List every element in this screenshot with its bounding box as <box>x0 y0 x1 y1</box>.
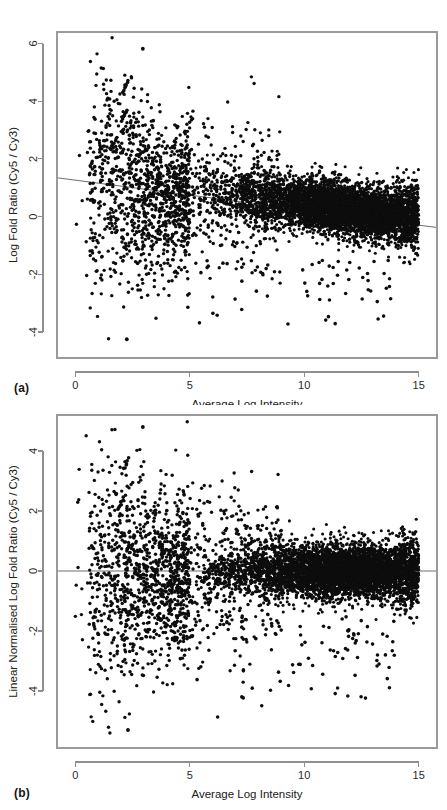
y-axis-ticks: 420-2-4 <box>27 448 43 696</box>
panel-b-tag: (b) <box>14 786 30 800</box>
y-tick-label: 0 <box>27 214 39 220</box>
x-tick-label: 5 <box>187 769 193 781</box>
y-tick-label: 2 <box>27 508 39 514</box>
y-tick-label: 0 <box>27 568 39 574</box>
scatter-points <box>74 420 421 735</box>
y-tick-label: -4 <box>27 686 39 696</box>
y-tick-label: -2 <box>27 269 39 279</box>
x-tick-label: 0 <box>72 769 78 781</box>
y-tick-label: -4 <box>27 327 39 337</box>
scatter-points <box>75 36 420 341</box>
x-tick-label: 15 <box>413 769 425 781</box>
x-tick-label: 10 <box>298 769 310 781</box>
y-axis-title: Linear Normalised Log Fold Ratio (Cy5 / … <box>7 465 19 698</box>
panel-b: 051015420-2-4Average Log IntensityLinear… <box>0 405 447 810</box>
y-tick-label: 6 <box>27 40 39 46</box>
panel-b-plot: 051015420-2-4Average Log IntensityLinear… <box>0 405 447 810</box>
x-axis-ticks: 051015 <box>72 762 425 781</box>
ma-plot-figure: 0510156420-2-4Average Log IntensityLog F… <box>0 0 447 810</box>
y-tick-label: -2 <box>27 626 39 636</box>
x-tick-label: 0 <box>72 379 78 391</box>
panel-a-plot: 0510156420-2-4Average Log IntensityLog F… <box>0 0 447 405</box>
x-axis-title: Average Log Intensity <box>191 788 302 800</box>
y-tick-label: 4 <box>27 98 39 104</box>
y-tick-label: 4 <box>27 448 39 454</box>
y-axis-title: Log Fold Ratio (Cy5 / Cy3) <box>7 127 19 263</box>
y-tick-label: 2 <box>27 156 39 162</box>
panel-a-tag: (a) <box>14 381 29 395</box>
panel-a: 0510156420-2-4Average Log IntensityLog F… <box>0 0 447 405</box>
x-axis-ticks: 051015 <box>72 372 425 391</box>
y-axis-ticks: 6420-2-4 <box>27 40 43 336</box>
x-axis-title: Average Log Intensity <box>191 398 302 405</box>
x-tick-label: 10 <box>298 379 310 391</box>
x-tick-label: 15 <box>413 379 425 391</box>
x-tick-label: 5 <box>187 379 193 391</box>
